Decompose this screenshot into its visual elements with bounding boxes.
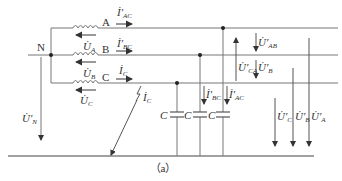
fault-path <box>111 86 141 155</box>
phase-b-label: B <box>102 43 109 55</box>
fault-current-label: İC <box>142 91 152 105</box>
voltage-a-ground-label: U̇′A <box>311 110 326 124</box>
cap-current-bc-label: İ′BC <box>205 88 221 102</box>
phase-a-label: A <box>102 16 110 28</box>
source-voltage-b-label: U̇B <box>83 67 96 81</box>
neutral-node <box>49 53 53 57</box>
current-b-label: İ′BC <box>116 37 132 51</box>
junction-c <box>175 81 179 85</box>
figure-caption: （a） <box>150 162 177 174</box>
source-voltage-a-label: U̇A <box>83 40 96 54</box>
phase-a-line <box>51 26 338 29</box>
cap-current-ac-label: İ′AC <box>228 88 244 102</box>
voltage-b-line-label: U̇′B <box>258 61 273 75</box>
capacitor-plates <box>170 112 230 117</box>
phase-c-label: C <box>102 71 109 83</box>
capacitor-c-label: C <box>160 109 168 121</box>
current-c-label: İC <box>118 64 128 78</box>
capacitor-branches <box>177 28 223 156</box>
voltage-c-ground-label: U̇′C <box>277 110 292 124</box>
voltage-ab-label: U̇′AB <box>258 36 278 50</box>
junction-b <box>198 53 202 57</box>
source-voltage-c-label: U̇C <box>80 94 93 108</box>
circuit-diagram: N U̇′N A B C U̇A U̇B U̇C İ′AC İ′BC İC İC <box>0 0 342 181</box>
capacitor-b-label: C <box>184 109 192 121</box>
neutral-voltage-label: U̇′N <box>22 112 37 126</box>
current-a-label: İ′AC <box>116 6 132 20</box>
voltage-b-ground-label: U̇′B <box>295 110 310 124</box>
neutral-label: N <box>37 41 45 53</box>
junction-a <box>221 26 225 30</box>
voltage-ca-label: U̇′CA <box>238 61 258 75</box>
capacitor-a-label: C <box>208 109 216 121</box>
